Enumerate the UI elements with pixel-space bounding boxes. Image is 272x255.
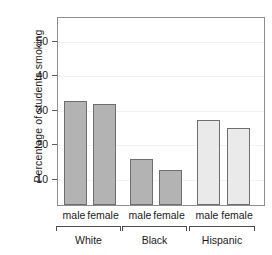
gridline xyxy=(58,111,264,112)
bar-black-female xyxy=(159,170,182,205)
x-tick-label-hispanic-female: female xyxy=(221,209,253,221)
x-tick-label-white-female: female xyxy=(87,209,119,221)
bar-hispanic-male xyxy=(197,120,220,205)
y-tick-label: 20 xyxy=(14,138,48,150)
group-bracket-white xyxy=(56,226,121,231)
gridline xyxy=(58,42,264,43)
group-label-hispanic: Hispanic xyxy=(202,234,242,246)
group-label-black: Black xyxy=(142,234,168,246)
y-tick-label: 30 xyxy=(14,104,48,116)
group-bracket-hispanic xyxy=(189,226,255,231)
bar-white-male xyxy=(64,101,87,205)
x-tick-label-white-male: male xyxy=(63,209,86,221)
plot-area xyxy=(57,17,265,206)
y-tick-label: 50 xyxy=(14,35,48,47)
bar-black-male xyxy=(130,159,153,205)
bar-hispanic-female xyxy=(227,128,250,205)
bar-white-female xyxy=(93,104,116,205)
y-tick-label: 40 xyxy=(14,69,48,81)
group-bracket-black xyxy=(122,226,187,231)
x-tick-label-hispanic-male: male xyxy=(196,209,219,221)
gridline xyxy=(58,76,264,77)
group-label-white: White xyxy=(75,234,102,246)
bar-chart: Percentage of students smoking 504030201… xyxy=(0,0,272,255)
y-tick-label: 10 xyxy=(14,173,48,185)
x-tick-label-black-male: male xyxy=(129,209,152,221)
x-tick-label-black-female: female xyxy=(153,209,185,221)
